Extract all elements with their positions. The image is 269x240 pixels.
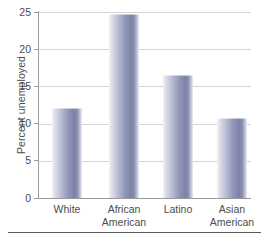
x-tick-label-asian-american-line1: Asian — [192, 203, 269, 216]
x-tick-label-asian-american: Asian American — [192, 203, 269, 228]
plot-area — [39, 12, 251, 198]
y-tick-label-10: 10 — [7, 118, 31, 128]
bar-chart-figure: Percent unemployed 25 20 15 10 5 0 — [0, 0, 269, 240]
gridline-20 — [39, 49, 251, 50]
y-axis-title: Percent unemployed — [14, 5, 28, 205]
bar-white[interactable] — [52, 108, 82, 198]
y-tick-label-5: 5 — [7, 155, 31, 165]
y-tick-label-0: 0 — [7, 193, 31, 203]
y-tick-label-20: 20 — [7, 44, 31, 54]
y-tick-label-15: 15 — [7, 81, 31, 91]
bar-top-edge — [217, 118, 247, 119]
y-tick-label-25: 25 — [7, 7, 31, 17]
x-tick-label-african-american-line2: American — [84, 216, 164, 229]
x-axis-line — [39, 198, 251, 199]
bar-african-american[interactable] — [109, 14, 139, 198]
bar-asian-american[interactable] — [217, 118, 247, 198]
bar-latino[interactable] — [163, 75, 193, 198]
bottom-divider-rule — [8, 232, 261, 233]
x-tick-label-asian-american-line2: American — [192, 216, 269, 229]
bar-top-edge — [163, 75, 193, 76]
gridline-25 — [39, 12, 251, 13]
bar-top-edge — [109, 14, 139, 15]
bar-top-edge — [52, 108, 82, 109]
gridline-15 — [39, 86, 251, 87]
